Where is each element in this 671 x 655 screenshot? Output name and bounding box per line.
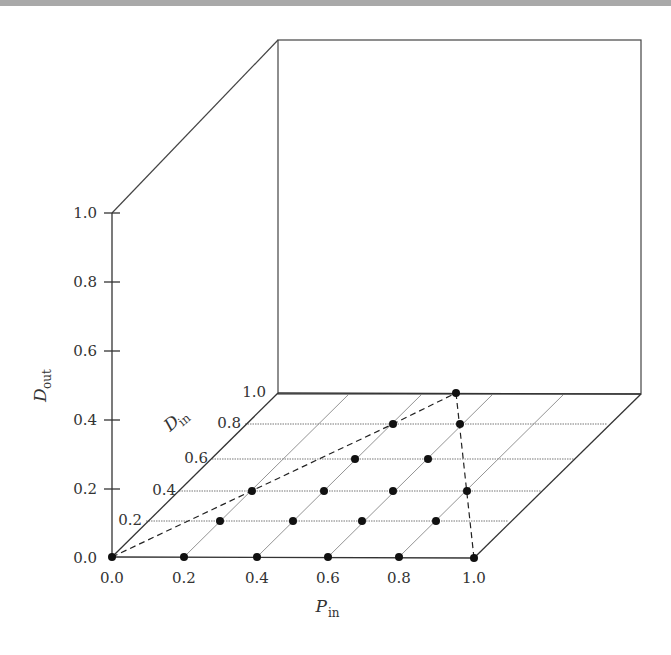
back-plane — [112, 40, 641, 394]
z-tick-0: 0.0 — [73, 549, 97, 567]
z-tick-1: 0.2 — [73, 480, 97, 498]
z-axis — [104, 213, 120, 557]
z-tick-5: 1.0 — [73, 204, 97, 222]
depth-tick-1: 0.4 — [152, 481, 176, 499]
z-tick-labels: 0.0 0.2 0.4 0.6 0.8 1.0 — [73, 204, 97, 567]
z-axis-label-sub: out — [40, 369, 54, 389]
z-tick-2: 0.4 — [73, 411, 97, 429]
z-axis-label: D — [30, 388, 50, 403]
depth-tick-labels: 0.2 0.4 0.6 0.8 1.0 — [118, 383, 266, 529]
x-tick-3: 0.6 — [316, 569, 340, 587]
depth-tick-2: 0.6 — [184, 449, 208, 467]
z-axis-title: D out — [30, 369, 54, 403]
chart-3d: 0.0 0.2 0.4 0.6 0.8 1.0 0.0 0.2 0.4 0.6 … — [0, 0, 671, 655]
x-tick-0: 0.0 — [100, 569, 124, 587]
depth-tick-4: 1.0 — [242, 383, 266, 401]
x-axis-label: P — [315, 596, 328, 616]
data-points — [108, 389, 478, 562]
depth-tick-0: 0.2 — [118, 511, 142, 529]
x-tick-4: 0.8 — [387, 569, 411, 587]
depth-tick-3: 0.8 — [217, 414, 241, 432]
x-tick-labels: 0.0 0.2 0.4 0.6 0.8 1.0 — [100, 569, 486, 587]
x-tick-2: 0.4 — [245, 569, 269, 587]
z-tick-4: 0.8 — [73, 273, 97, 291]
x-tick-5: 1.0 — [462, 569, 486, 587]
floor-grid — [112, 393, 641, 558]
x-tick-1: 0.2 — [172, 569, 196, 587]
z-tick-3: 0.6 — [73, 342, 97, 360]
x-axis-label-sub: in — [328, 606, 340, 620]
depth-axis-title: D in — [159, 404, 194, 438]
